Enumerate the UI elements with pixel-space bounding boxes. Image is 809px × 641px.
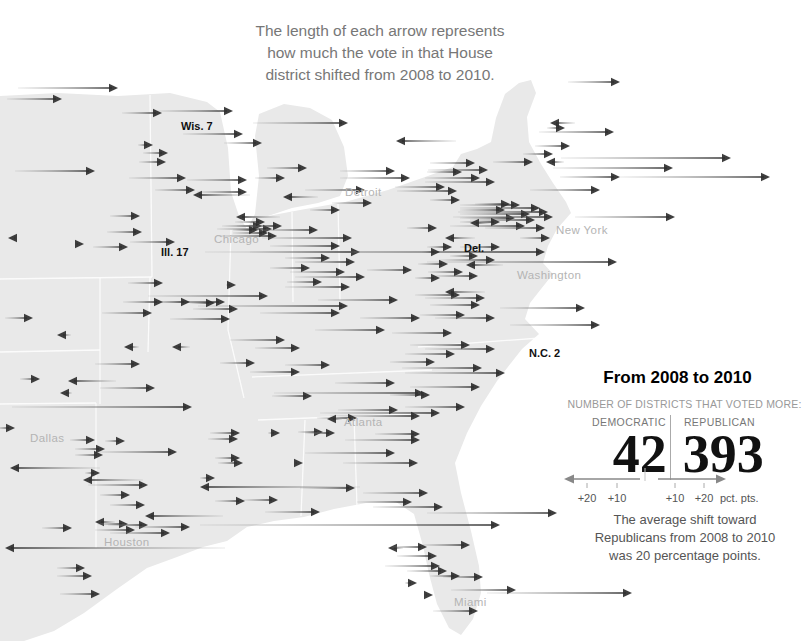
shift-arrow — [405, 579, 417, 587]
district-label: Ill. 17 — [161, 246, 189, 258]
scale-tick-right-10: +10 — [666, 492, 685, 504]
shift-arrow — [385, 562, 440, 570]
shift-arrow — [388, 544, 403, 552]
democratic-scale-arrow — [564, 475, 640, 489]
stats-panel: From 2008 to 2010 NUMBER OF DISTRICTS TH… — [560, 368, 809, 568]
us-map-shape — [0, 80, 571, 641]
city-label: Chicago — [214, 233, 259, 245]
city-label: Washington — [517, 269, 581, 281]
shift-arrow — [340, 174, 410, 182]
shift-arrow — [340, 167, 395, 175]
scale-tick-right-20: +20 — [695, 492, 714, 504]
shift-arrow — [392, 543, 427, 551]
city-label: New York — [556, 224, 608, 236]
scale-unit: pct. pts. — [720, 492, 759, 504]
city-label: Houston — [104, 536, 150, 548]
shift-arrow — [539, 128, 614, 136]
shift-arrow — [575, 213, 675, 221]
shift-scale: +20 +10 +10 +20 pct. pts. — [560, 468, 800, 510]
city-label: Atlanta — [344, 416, 383, 428]
shift-arrow — [560, 173, 620, 181]
shift-arrow — [620, 173, 770, 181]
shift-arrow — [430, 159, 475, 167]
shift-arrow — [561, 154, 731, 162]
average-shift-note: The average shift toward Republicans fro… — [565, 511, 805, 566]
shift-arrow — [424, 591, 433, 599]
shift-arrow — [568, 78, 620, 86]
chart-annotation: The length of each arrow represents how … — [230, 20, 530, 86]
shift-arrow — [546, 158, 564, 166]
city-label: Detroit — [345, 186, 382, 198]
shift-arrow — [553, 164, 673, 172]
district-label: N.C. 2 — [529, 347, 560, 359]
shift-arrow — [535, 142, 570, 150]
republican-scale-arrow — [658, 475, 726, 489]
panel-title: From 2008 to 2010 — [560, 368, 795, 388]
scale-tick-left-10: +10 — [608, 492, 627, 504]
panel-subtitle: NUMBER OF DISTRICTS THAT VOTED MORE: — [560, 398, 809, 410]
district-label: Del. — [464, 242, 484, 254]
shift-arrow — [18, 84, 118, 92]
city-label: Miami — [454, 596, 487, 608]
district-label: Wis. 7 — [181, 120, 213, 132]
city-label: Dallas — [30, 432, 64, 444]
shift-arrow — [547, 124, 565, 132]
shift-arrow — [396, 137, 456, 145]
scale-tick-left-20: +20 — [578, 492, 597, 504]
shift-arrow — [550, 119, 575, 127]
vote-shift-map-graphic: DetroitChicagoNew YorkWashingtonAtlantaD… — [0, 0, 809, 641]
